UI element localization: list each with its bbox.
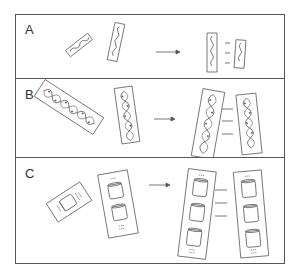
panel-c-drawing bbox=[16, 158, 284, 264]
panel-b-drawing bbox=[16, 79, 284, 158]
arrow-icon bbox=[154, 117, 175, 121]
arrow-icon bbox=[156, 50, 180, 54]
bond-lines-icon bbox=[215, 190, 227, 216]
triple-unit-crystal-icon bbox=[178, 169, 217, 260]
panel-b: B bbox=[16, 78, 284, 157]
triple-unit-crystal-icon bbox=[233, 170, 268, 258]
helix-crystal-icon bbox=[191, 89, 224, 158]
long-crystal-icon bbox=[207, 33, 217, 72]
arrow-icon bbox=[149, 183, 170, 187]
short-crystal-icon bbox=[66, 33, 93, 57]
helix-crystal-icon bbox=[236, 93, 262, 155]
double-unit-crystal-icon bbox=[98, 170, 139, 238]
short-crystal-icon bbox=[234, 40, 246, 69]
figure-frame: A bbox=[15, 14, 285, 264]
long-crystal-icon bbox=[107, 22, 125, 61]
helix-crystal-icon bbox=[34, 80, 104, 135]
panel-c: C bbox=[16, 157, 284, 263]
panel-a: A bbox=[16, 15, 284, 78]
bond-lines-icon bbox=[222, 109, 233, 134]
helix-crystal-icon bbox=[114, 86, 140, 144]
bond-lines-icon bbox=[225, 43, 230, 63]
panel-a-drawing bbox=[16, 15, 284, 78]
single-unit-crystal-icon bbox=[46, 182, 92, 222]
